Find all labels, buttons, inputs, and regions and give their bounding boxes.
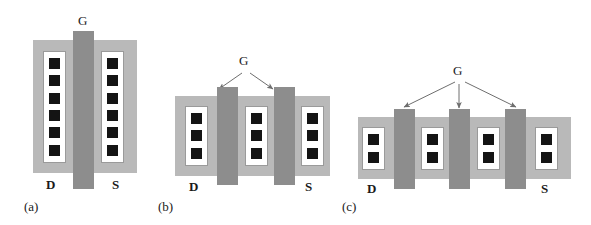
panel-a: G D S (a) bbox=[0, 0, 170, 225]
panel-b-contact-column-1 bbox=[185, 106, 208, 166]
contact bbox=[49, 145, 60, 156]
figure-canvas: G D S (a) G bbox=[0, 0, 591, 225]
panel-b-contact-column-2 bbox=[245, 106, 268, 166]
contact bbox=[49, 93, 60, 104]
panel-c-source-label: S bbox=[541, 182, 548, 195]
contact bbox=[368, 152, 379, 163]
panel-a-gate-finger-1 bbox=[73, 31, 94, 189]
panel-a-source-label: S bbox=[112, 178, 119, 191]
contact bbox=[49, 75, 60, 86]
panel-a-caption: (a) bbox=[24, 200, 38, 213]
contact bbox=[427, 134, 438, 145]
contact bbox=[191, 148, 202, 159]
contact bbox=[427, 152, 438, 163]
contact bbox=[541, 152, 552, 163]
contact bbox=[307, 113, 318, 124]
contact bbox=[307, 130, 318, 141]
contact bbox=[307, 148, 318, 159]
panel-a-contact-column-1 bbox=[43, 51, 66, 163]
panel-b-caption: (b) bbox=[158, 200, 173, 213]
panel-b-gate-label: G bbox=[239, 54, 248, 67]
panel-b-drain-label: D bbox=[189, 180, 198, 193]
contact bbox=[107, 127, 118, 138]
contact bbox=[49, 110, 60, 121]
panel-b: G bbox=[160, 0, 345, 225]
contact bbox=[107, 110, 118, 121]
contact bbox=[483, 152, 494, 163]
contact bbox=[49, 58, 60, 69]
panel-a-gate-label: G bbox=[78, 14, 87, 27]
panel-c-contact-column-1 bbox=[362, 127, 385, 170]
panel-a-contact-column-2 bbox=[101, 51, 124, 163]
panel-b-source-label: S bbox=[305, 180, 312, 193]
panel-c-drain-label: D bbox=[367, 182, 376, 195]
contact bbox=[49, 127, 60, 138]
contact bbox=[107, 145, 118, 156]
contact bbox=[251, 113, 262, 124]
contact bbox=[251, 130, 262, 141]
contact bbox=[483, 134, 494, 145]
panel-b-gate-callout bbox=[160, 0, 345, 110]
panel-c-gate-callout bbox=[345, 0, 591, 125]
panel-c-contact-column-3 bbox=[477, 127, 500, 170]
contact bbox=[191, 113, 202, 124]
panel-c-gate-finger-3 bbox=[505, 109, 526, 189]
panel-b-gate-finger-1 bbox=[217, 87, 238, 185]
panel-c-contact-column-4 bbox=[535, 127, 558, 170]
contact bbox=[107, 58, 118, 69]
panel-c-caption: (c) bbox=[342, 200, 356, 213]
contact bbox=[251, 148, 262, 159]
panel-c-gate-finger-1 bbox=[394, 109, 415, 189]
contact bbox=[368, 134, 379, 145]
contact bbox=[541, 134, 552, 145]
contact bbox=[107, 93, 118, 104]
panel-b-gate-finger-2 bbox=[274, 87, 295, 185]
panel-c-gate-finger-2 bbox=[449, 109, 470, 189]
panel-c-gate-label: G bbox=[453, 64, 462, 77]
panel-a-drain-label: D bbox=[46, 178, 55, 191]
contact bbox=[191, 130, 202, 141]
contact bbox=[107, 75, 118, 86]
panel-c-contact-column-2 bbox=[421, 127, 444, 170]
panel-b-contact-column-3 bbox=[301, 106, 324, 166]
panel-c: G bbox=[345, 0, 591, 225]
